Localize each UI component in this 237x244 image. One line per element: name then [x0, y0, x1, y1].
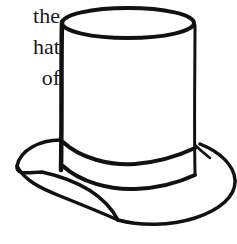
hat-brim-left	[17, 140, 118, 220]
hat-crown-left-side	[61, 22, 62, 170]
hat-crown-top	[62, 8, 194, 38]
top-hat-illustration	[0, 0, 237, 244]
hat-band-top	[63, 142, 195, 164]
